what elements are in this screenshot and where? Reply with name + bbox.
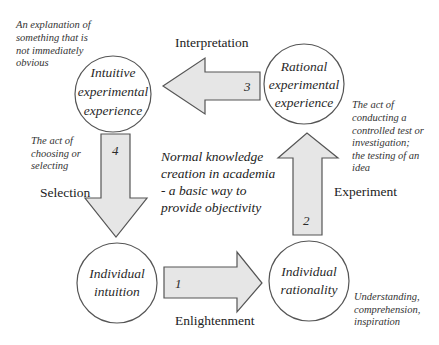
note-interpretation: An explanation of something that is not … — [15, 19, 93, 68]
node-circle — [269, 241, 349, 321]
node-text-line: Rational — [280, 59, 328, 74]
center-line: Normal knowledge — [160, 149, 263, 164]
note-line: conducting a — [352, 112, 407, 123]
label-enlightenment: Enlightenment — [175, 313, 255, 328]
node-text-line: experimental — [78, 84, 149, 99]
note-selection: The act of choosing or selecting — [31, 135, 82, 171]
arrow-3-number: 3 — [243, 79, 251, 94]
note-line: idea — [352, 162, 370, 173]
arrow-4-selection: 4 — [85, 134, 147, 237]
node-text-line: experience — [275, 95, 333, 110]
note-line: comprehension, — [354, 304, 420, 315]
center-line: - a basic way to — [161, 183, 247, 198]
note-line: something that is — [16, 32, 88, 43]
note-line: selecting — [31, 160, 68, 171]
note-experiment: The act of conducting a controlled test … — [352, 99, 425, 173]
node-circle — [77, 243, 157, 323]
node-text-line: Individual — [280, 264, 337, 279]
center-line: creation in academia — [161, 166, 275, 181]
note-line: choosing or — [31, 148, 82, 159]
note-line: controlled test or — [352, 125, 425, 136]
node-rational-experimental-experience: Rational experimental experience — [264, 44, 344, 124]
center-caption: Normal knowledge creation in academia - … — [160, 149, 275, 215]
node-individual-rationality: Individual rationality — [269, 241, 349, 321]
note-line: not immediately — [16, 45, 84, 56]
arrow-4-number: 4 — [112, 143, 119, 158]
node-text-line: rationality — [281, 282, 338, 297]
note-line: inspiration — [354, 316, 400, 327]
node-text-line: Individual — [88, 266, 145, 281]
node-text-line: Intuitive — [90, 65, 136, 80]
note-line: investigation; — [352, 137, 410, 148]
arrow-1-number: 1 — [175, 276, 182, 291]
node-text-line: intuition — [94, 284, 140, 299]
arrow-2-experiment: 2 — [278, 133, 338, 235]
label-experiment: Experiment — [334, 184, 397, 199]
note-line: obvious — [16, 57, 49, 68]
note-line: Understanding, — [354, 291, 420, 302]
arrow-3-interpretation: 3 — [163, 58, 260, 114]
note-line: The act of — [31, 135, 75, 146]
note-line: An explanation of — [15, 19, 93, 30]
node-intuitive-experimental-experience: Intuitive experimental experience — [75, 56, 151, 132]
arrow-1-enlightenment: 1 — [164, 252, 262, 312]
center-line: provide objectivity — [160, 200, 261, 215]
note-enlightenment: Understanding, comprehension, inspiratio… — [354, 291, 420, 327]
note-line: the testing of an — [352, 150, 419, 161]
note-line: The act of — [352, 99, 396, 110]
label-interpretation: Interpretation — [175, 35, 249, 50]
node-individual-intuition: Individual intuition — [77, 243, 157, 323]
label-selection: Selection — [40, 185, 90, 200]
node-text-line: experimental — [269, 77, 340, 92]
arrow-2-number: 2 — [303, 213, 310, 228]
node-text-line: experience — [84, 103, 142, 118]
knowledge-creation-cycle-diagram: 3 4 2 1 Intuitive experimental experienc… — [0, 0, 439, 345]
